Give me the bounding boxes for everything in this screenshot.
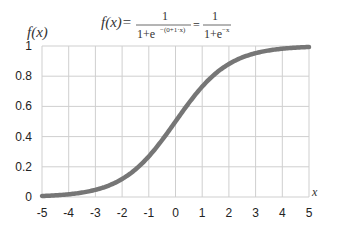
x-tick-label: 5: [306, 206, 313, 220]
x-tick-label: 4: [279, 206, 286, 220]
x-tick-label: -2: [117, 206, 128, 220]
x-tick-label: -4: [63, 206, 74, 220]
formula-frac2-exponent: −x: [222, 26, 230, 34]
x-tick-label: -3: [90, 206, 101, 220]
x-axis-label: x: [311, 185, 318, 199]
formula-frac1-denominator: 1+e: [137, 27, 155, 41]
y-axis-ticks: 00.20.40.60.81: [15, 39, 32, 204]
y-tick-label: 1: [25, 39, 32, 53]
y-tick-label: 0.8: [15, 69, 32, 83]
formula-frac2-denominator: 1+e: [204, 27, 222, 41]
formula-frac1-numerator: 1: [162, 9, 168, 23]
y-tick-label: 0.6: [15, 99, 32, 113]
x-tick-label: 1: [199, 206, 206, 220]
sigmoid-chart: 00.20.40.60.81 -5-4-3-2-1012345 f(x) x f…: [0, 0, 337, 231]
x-tick-label: 3: [252, 206, 259, 220]
x-tick-label: -5: [37, 206, 48, 220]
x-tick-label: 2: [226, 206, 233, 220]
formula: f(x)= 1 1+e −(0+1·x) = 1 1+e −x: [101, 9, 231, 41]
x-tick-label: -1: [143, 206, 154, 220]
x-axis-ticks: -5-4-3-2-1012345: [37, 206, 313, 220]
formula-equals: =: [193, 18, 200, 32]
formula-frac2-numerator: 1: [212, 9, 218, 23]
y-tick-label: 0.4: [15, 130, 32, 144]
y-tick-label: 0: [25, 190, 32, 204]
y-tick-label: 0.2: [15, 160, 32, 174]
x-tick-label: 0: [172, 206, 179, 220]
y-axis-label: f(x): [27, 24, 48, 41]
formula-frac1-exponent: −(0+1·x): [160, 26, 186, 34]
formula-lhs: f(x)=: [101, 14, 132, 31]
